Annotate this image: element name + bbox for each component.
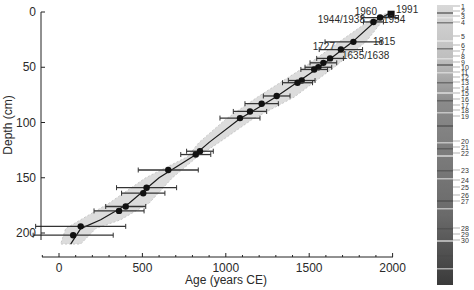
dated-point	[36, 223, 126, 229]
x-tick-label: 2000	[379, 261, 406, 275]
date-annotation: 1727	[313, 41, 336, 52]
y-axis-title: Depth (cm)	[1, 95, 15, 154]
core-image: 1234567891011121314151617181920212223242…	[437, 3, 469, 285]
y-tick-label: 100	[16, 116, 36, 130]
core-layer-label: 19	[461, 113, 469, 120]
dated-point	[33, 232, 113, 238]
core-layer-label: 4	[461, 19, 465, 26]
dated-point	[138, 167, 198, 173]
x-axis: 0500100015002000 Age (years CE)	[42, 253, 406, 287]
y-tick-label: 200	[16, 226, 36, 240]
x-tick-label: 0	[56, 261, 63, 275]
x-tick-label: 1500	[296, 261, 323, 275]
core-layer-label: 22	[461, 150, 469, 157]
y-tick-label: 150	[16, 171, 36, 185]
y-tick-label: 0	[29, 5, 36, 19]
core-layer-label: 25	[461, 184, 469, 191]
date-annotation: 1635/1638	[342, 50, 390, 61]
date-annotation: 1954	[383, 14, 406, 25]
core-layer-label: 23	[461, 167, 469, 174]
date-annotation: 1815	[373, 36, 396, 47]
core-layer-label: 27	[461, 198, 469, 205]
y-tick-label: 50	[23, 60, 37, 74]
dated-point	[117, 184, 177, 190]
dated-point	[181, 151, 211, 157]
core-layer-label: 24	[461, 177, 469, 184]
age-depth-chart: 1991196019541944/1938181517271635/1638 0…	[0, 0, 474, 290]
core-layer-label: 30	[461, 237, 469, 244]
x-axis-title: Age (years CE)	[185, 273, 267, 287]
x-tick-label: 500	[132, 261, 152, 275]
core-layer-label: 5	[461, 33, 465, 40]
date-annotation: 1944/1938	[318, 14, 366, 25]
y-axis: 050100150200 Depth (cm)	[1, 5, 45, 240]
